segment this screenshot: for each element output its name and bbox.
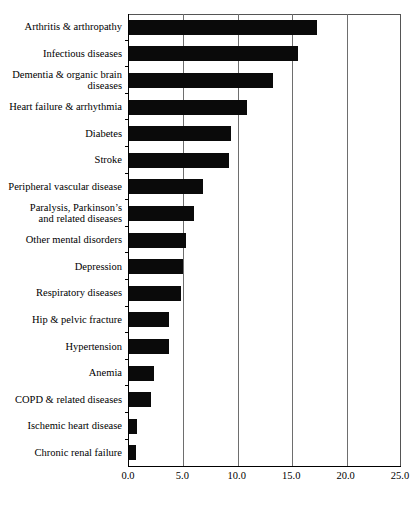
- plot-area: [128, 14, 401, 467]
- category-label: Paralysis, Parkinson’s and related disea…: [0, 200, 126, 227]
- bar: [129, 46, 298, 61]
- bar: [129, 233, 186, 248]
- category-label: Ischemic heart disease: [0, 413, 126, 440]
- bar: [129, 179, 203, 194]
- bars-group: [129, 14, 401, 466]
- category-label: Hypertension: [0, 333, 126, 360]
- bar-row: [129, 94, 401, 121]
- x-tick-label: 5.0: [176, 470, 189, 481]
- bar-row: [129, 200, 401, 227]
- bar-row: [129, 386, 401, 413]
- bar: [129, 259, 183, 274]
- bar: [129, 100, 247, 115]
- bar-chart: Arthritis & arthropathy Infectious disea…: [0, 0, 418, 519]
- bar: [129, 206, 194, 221]
- x-tick-label: 25.0: [391, 470, 409, 481]
- x-tick-label: 20.0: [336, 470, 354, 481]
- x-tick-label: 10.0: [228, 470, 246, 481]
- category-label: Dementia & organic brain diseases: [0, 67, 126, 94]
- bar-row: [129, 14, 401, 41]
- bar-row: [129, 413, 401, 440]
- bar-row: [129, 67, 401, 94]
- category-label: Diabetes: [0, 120, 126, 147]
- bar-row: [129, 227, 401, 254]
- category-label: Chronic renal failure: [0, 440, 126, 467]
- category-labels-column: Arthritis & arthropathy Infectious disea…: [0, 14, 126, 466]
- bar: [129, 73, 273, 88]
- bar: [129, 419, 137, 434]
- category-label: Heart failure & arrhythmia: [0, 94, 126, 121]
- bar-row: [129, 174, 401, 201]
- category-label: Respiratory diseases: [0, 280, 126, 307]
- category-label: Depression: [0, 253, 126, 280]
- bar-row: [129, 440, 401, 467]
- category-label: Infectious diseases: [0, 41, 126, 68]
- bar-row: [129, 280, 401, 307]
- category-label: Hip & pelvic fracture: [0, 307, 126, 334]
- x-tick-label: 15.0: [282, 470, 300, 481]
- bar: [129, 392, 151, 407]
- bar: [129, 153, 229, 168]
- category-label: Anemia: [0, 360, 126, 387]
- bar: [129, 20, 317, 35]
- bar: [129, 445, 136, 460]
- bar: [129, 286, 181, 301]
- category-label: COPD & related diseases: [0, 386, 126, 413]
- category-label: Peripheral vascular disease: [0, 174, 126, 201]
- bar-row: [129, 120, 401, 147]
- bar-row: [129, 360, 401, 387]
- x-axis-tick-labels: 0.05.010.015.020.025.0: [128, 470, 400, 490]
- category-label: Other mental disorders: [0, 227, 126, 254]
- bar-row: [129, 147, 401, 174]
- bar: [129, 312, 169, 327]
- x-tick-label: 0.0: [121, 470, 134, 481]
- bar: [129, 366, 154, 381]
- bar: [129, 126, 231, 141]
- category-label: Stroke: [0, 147, 126, 174]
- bar-row: [129, 307, 401, 334]
- category-label: Arthritis & arthropathy: [0, 14, 126, 41]
- bar: [129, 339, 169, 354]
- bar-row: [129, 253, 401, 280]
- bar-row: [129, 333, 401, 360]
- bar-row: [129, 41, 401, 68]
